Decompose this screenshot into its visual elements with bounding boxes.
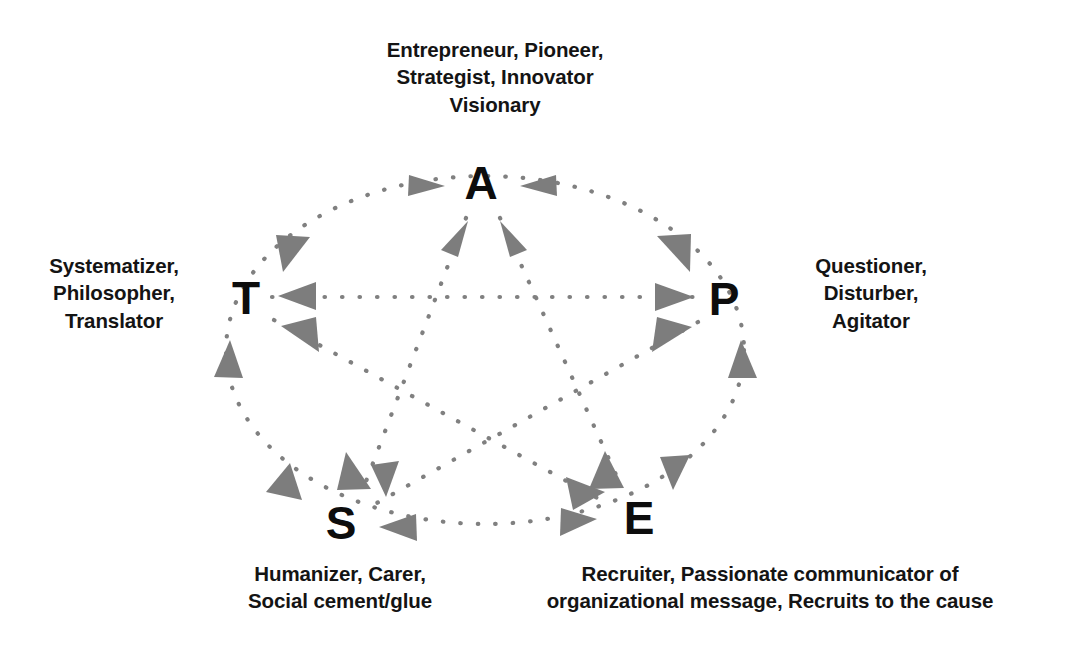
arrowhead-t-to-p [655, 283, 694, 311]
arrowhead-p-to-t [278, 282, 316, 310]
node-letter-e: E [624, 492, 655, 544]
node-letter-s: S [326, 497, 357, 549]
node-letter-p: P [709, 273, 740, 325]
role-label-e: Recruiter, Passionate communicator of or… [520, 560, 1020, 615]
arrowhead-p-to-a [520, 175, 557, 196]
aptse-pentagon-diagram: A T P S E Entrepreneur, Pioneer, Strateg… [0, 0, 1082, 667]
arrowheads-node-t [214, 235, 319, 378]
arrowhead-a-to-s [337, 452, 371, 490]
edge-a-s [362, 218, 466, 492]
arrowhead-a-to-p [657, 234, 691, 272]
arrowhead-a-to-t [276, 235, 310, 272]
arrowhead-s-to-e [560, 508, 597, 536]
role-label-p: Questioner, Disturber, Agitator [768, 252, 974, 334]
arrowhead-e-to-s [379, 514, 417, 541]
arrowhead-t-to-a [408, 175, 445, 196]
arrowhead-s-to-p [652, 317, 692, 352]
role-label-t: Systematizer, Philosopher, Translator [8, 252, 220, 334]
arrowhead-p-to-s [371, 461, 399, 497]
arrowheads-node-p [652, 234, 757, 378]
arrowhead-s-to-a [441, 221, 468, 257]
edge-a-e [500, 218, 622, 488]
inner-star-group [272, 218, 700, 508]
role-label-a: Entrepreneur, Pioneer, Strategist, Innov… [330, 36, 660, 118]
arrowhead-e-to-p [728, 340, 757, 378]
arrowhead-e-to-t [281, 317, 319, 352]
role-label-s: Humanizer, Carer, Social cement/glue [170, 560, 510, 615]
arrowhead-a-to-e [589, 451, 624, 489]
arrowhead-e-to-a [500, 221, 527, 257]
arrowhead-p-to-e [660, 455, 690, 490]
arrowhead-s-to-t [214, 340, 243, 378]
node-letter-t: T [232, 272, 260, 324]
node-letter-a: A [464, 157, 497, 209]
node-letters-group: A T P S E [232, 157, 739, 549]
edge-t-e [274, 320, 610, 505]
